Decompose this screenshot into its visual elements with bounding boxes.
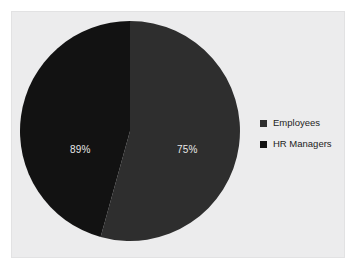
- legend-label: Employees: [273, 117, 320, 129]
- legend-swatch-icon: [260, 120, 267, 127]
- legend-swatch-icon: [260, 141, 267, 148]
- pie-slice-label-hr-managers: 75%: [177, 144, 198, 155]
- pie-chart-plot-area: 89% 75% Employees HR Managers: [12, 12, 344, 257]
- chart-legend: Employees HR Managers: [260, 117, 361, 159]
- legend-item-employees[interactable]: Employees: [260, 117, 361, 129]
- chart-panel: 89% 75% Employees HR Managers: [11, 11, 345, 258]
- pie-slices: [20, 21, 240, 241]
- pie-slice-label-employees: 89%: [70, 144, 91, 155]
- legend-label: HR Managers: [273, 138, 332, 150]
- legend-item-hr-managers[interactable]: HR Managers: [260, 138, 361, 150]
